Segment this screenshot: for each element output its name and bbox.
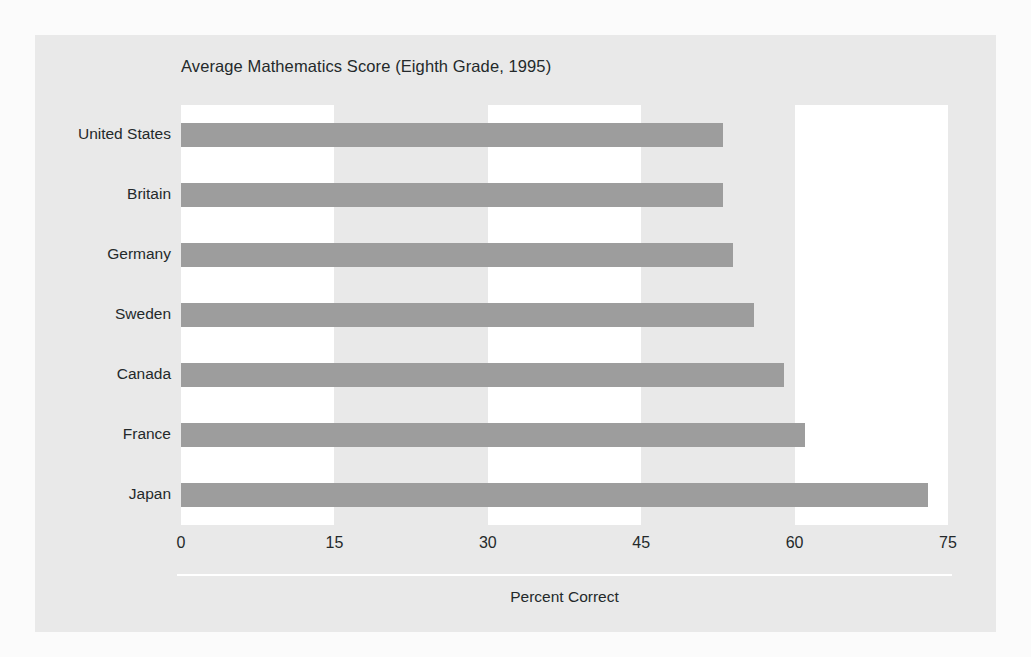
category-label: Canada (21, 365, 171, 383)
page-canvas: Average Mathematics Score (Eighth Grade,… (0, 0, 1031, 657)
bar (181, 483, 928, 507)
bar-row (181, 363, 948, 387)
axis-separator-rule (177, 574, 952, 576)
category-label: United States (21, 125, 171, 143)
bar (181, 183, 723, 207)
category-axis-labels: United StatesBritainGermanySwedenCanadaF… (16, 105, 171, 525)
category-label: Japan (21, 485, 171, 503)
category-label: Britain (21, 185, 171, 203)
bar-row (181, 243, 948, 267)
x-tick-label: 75 (939, 534, 957, 552)
bar (181, 243, 733, 267)
x-axis-tick-labels: 01530456075 (181, 534, 948, 558)
category-label: France (21, 425, 171, 443)
bar (181, 123, 723, 147)
bar (181, 363, 784, 387)
x-tick-label: 0 (177, 534, 186, 552)
bar-row (181, 123, 948, 147)
chart-title: Average Mathematics Score (Eighth Grade,… (181, 57, 551, 76)
bar-row (181, 423, 948, 447)
bar-row (181, 483, 948, 507)
x-tick-label: 15 (325, 534, 343, 552)
x-axis-title: Percent Correct (181, 588, 948, 606)
bar (181, 303, 754, 327)
bar-row (181, 183, 948, 207)
x-tick-label: 45 (632, 534, 650, 552)
bar (181, 423, 805, 447)
category-label: Germany (21, 245, 171, 263)
x-tick-label: 60 (786, 534, 804, 552)
bar-row (181, 303, 948, 327)
plot-area (181, 105, 948, 525)
x-tick-label: 30 (479, 534, 497, 552)
category-label: Sweden (21, 305, 171, 323)
